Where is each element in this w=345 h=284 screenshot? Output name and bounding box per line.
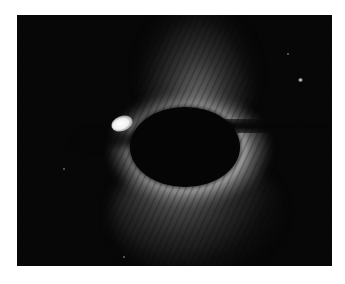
speck: [123, 256, 125, 258]
speck: [63, 168, 65, 170]
small-bright-spot: [298, 78, 303, 82]
scattering-photo: Grayscale scattering pattern photograph …: [17, 15, 332, 266]
speck: [287, 53, 289, 55]
beam-stop: [130, 107, 240, 187]
